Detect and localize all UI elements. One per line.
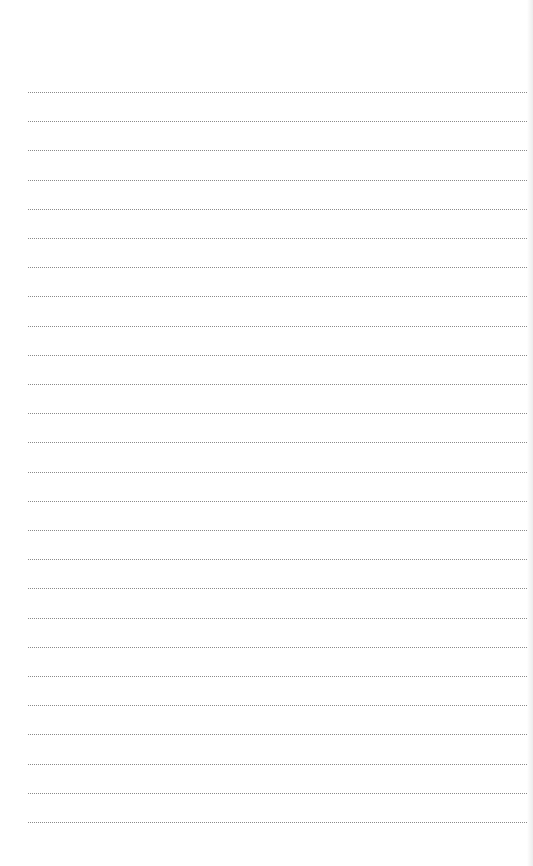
- dotted-writing-line: [28, 734, 533, 735]
- dotted-writing-line: [28, 92, 533, 93]
- dotted-writing-line: [28, 501, 533, 502]
- dotted-writing-line: [28, 267, 533, 268]
- dotted-writing-line: [28, 472, 533, 473]
- dotted-writing-line: [28, 618, 533, 619]
- dotted-writing-line: [28, 647, 533, 648]
- dotted-writing-line: [28, 676, 533, 677]
- dotted-writing-line: [28, 209, 533, 210]
- dotted-writing-line: [28, 793, 533, 794]
- dotted-writing-line: [28, 764, 533, 765]
- dotted-writing-line: [28, 296, 533, 297]
- dotted-writing-line: [28, 442, 533, 443]
- dotted-writing-line: [28, 530, 533, 531]
- dotted-writing-line: [28, 413, 533, 414]
- dotted-writing-line: [28, 559, 533, 560]
- dotted-writing-line: [28, 705, 533, 706]
- dotted-writing-line: [28, 384, 533, 385]
- dotted-writing-line: [28, 121, 533, 122]
- dotted-writing-line: [28, 238, 533, 239]
- dotted-writing-line: [28, 822, 533, 823]
- dotted-writing-line: [28, 150, 533, 151]
- page-edge-shadow: [527, 0, 533, 866]
- dotted-writing-line: [28, 588, 533, 589]
- dotted-writing-line: [28, 326, 533, 327]
- dotted-writing-line: [28, 355, 533, 356]
- lined-paper-page: [0, 0, 533, 866]
- dotted-writing-line: [28, 180, 533, 181]
